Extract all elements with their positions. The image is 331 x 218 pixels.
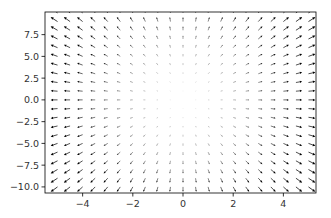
axes-frame [45,12,316,193]
x-axis: −4−2024 [76,193,287,209]
y-tick-label: 7.5 [24,29,39,40]
x-tick-label: 0 [180,198,186,209]
y-tick-label: 2.5 [24,73,39,84]
x-tick-label: −2 [126,198,140,209]
quiver-chart: −4−2024 −10.0−7.5−5.0−2.50.02.55.07.5 [0,0,331,218]
y-tick-label: −10.0 [10,181,39,192]
x-tick-label: 4 [280,198,286,209]
y-tick-label: 5.0 [24,51,39,62]
y-tick-label: −7.5 [16,160,39,171]
x-tick-label: 2 [230,198,236,209]
y-axis: −10.0−7.5−5.0−2.50.02.55.07.5 [10,29,45,192]
x-tick-label: −4 [76,198,90,209]
y-tick-label: −2.5 [16,116,39,127]
y-tick-label: −5.0 [16,138,39,149]
vector-arrows [51,8,316,192]
y-tick-label: 0.0 [24,94,39,105]
